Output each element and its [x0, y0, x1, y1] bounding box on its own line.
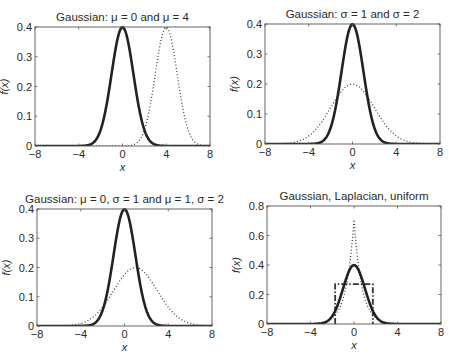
y-axis-label: f(x) — [230, 257, 242, 273]
y-tick-label: 0.8 — [249, 200, 264, 212]
x-tick-label: 4 — [165, 328, 171, 340]
y-tick-label: 0 — [258, 318, 264, 330]
chart-title: Gaussian: μ = 0 and μ = 4 — [56, 11, 189, 23]
series-solid-line — [35, 27, 210, 146]
series-solid-line — [37, 209, 212, 326]
subplot-1: Gaussian: μ = 0 and μ = 4−8−404800.10.20… — [0, 11, 213, 173]
y-axis-label: f(x) — [0, 259, 12, 275]
x-tick-label: −4 — [74, 328, 87, 340]
x-tick-label: 4 — [163, 148, 169, 160]
y-tick-label: 0.2 — [247, 78, 262, 90]
y-tick-label: 0.1 — [19, 291, 34, 303]
y-tick-label: 0.2 — [249, 289, 264, 301]
y-tick-label: 0.3 — [19, 232, 34, 244]
y-tick-label: 0.1 — [17, 110, 32, 122]
series-dotted-line — [267, 220, 441, 324]
series-dashdot-line — [335, 284, 373, 324]
x-tick-label: 4 — [394, 326, 400, 338]
x-axis-label: x — [349, 159, 356, 171]
y-tick-label: 0 — [26, 140, 32, 152]
y-axis-label: f(x) — [228, 76, 240, 92]
chart-title: Gaussian, Laplacian, uniform — [280, 190, 429, 202]
axes-box — [35, 27, 210, 146]
y-tick-label: 0.4 — [249, 259, 264, 271]
axes-box — [37, 209, 212, 326]
y-tick-label: 0.4 — [17, 21, 32, 33]
y-tick-label: 0.2 — [19, 262, 34, 274]
axes-box — [265, 24, 440, 144]
chart-title: Gaussian: μ = 0, σ = 1 and μ = 1, σ = 2 — [25, 193, 224, 205]
series-dotted-line — [37, 268, 212, 326]
y-tick-label: 0.1 — [247, 108, 262, 120]
x-tick-label: 8 — [438, 326, 444, 338]
y-tick-label: 0 — [28, 320, 34, 332]
series-solid-line — [265, 24, 440, 144]
y-axis-label: f(x) — [0, 78, 10, 94]
x-tick-label: −4 — [302, 146, 315, 158]
series-dotted-line — [265, 84, 440, 144]
x-tick-label: 0 — [349, 146, 355, 158]
figure: Gaussian: μ = 0 and μ = 4−8−404800.10.20… — [0, 0, 449, 356]
series-dotted-line — [35, 27, 210, 146]
y-tick-label: 0.2 — [17, 81, 32, 93]
x-axis-label: x — [350, 339, 357, 351]
x-tick-label: 8 — [437, 146, 443, 158]
chart-title: Gaussian: σ = 1 and σ = 2 — [286, 8, 420, 20]
subplot-2: Gaussian: σ = 1 and σ = 2−8−404800.10.20… — [228, 8, 443, 171]
x-axis-label: x — [119, 161, 126, 173]
x-axis-label: x — [121, 341, 128, 353]
y-tick-label: 0 — [256, 138, 262, 150]
x-tick-label: −4 — [72, 148, 85, 160]
y-tick-label: 0.4 — [247, 18, 262, 30]
y-tick-label: 0.3 — [247, 48, 262, 60]
series-solid-line — [267, 265, 441, 324]
x-tick-label: 4 — [393, 146, 399, 158]
y-tick-label: 0.3 — [17, 51, 32, 63]
x-tick-label: 8 — [207, 148, 213, 160]
x-tick-label: 8 — [209, 328, 215, 340]
x-tick-label: 0 — [119, 148, 125, 160]
x-tick-label: 0 — [351, 326, 357, 338]
y-tick-label: 0.4 — [19, 203, 34, 215]
x-tick-label: 0 — [121, 328, 127, 340]
y-tick-label: 0.6 — [249, 230, 264, 242]
subplot-4: Gaussian, Laplacian, uniform−8−404800.20… — [230, 190, 444, 351]
subplot-3: Gaussian: μ = 0, σ = 1 and μ = 1, σ = 2−… — [0, 193, 224, 353]
x-tick-label: −4 — [304, 326, 317, 338]
